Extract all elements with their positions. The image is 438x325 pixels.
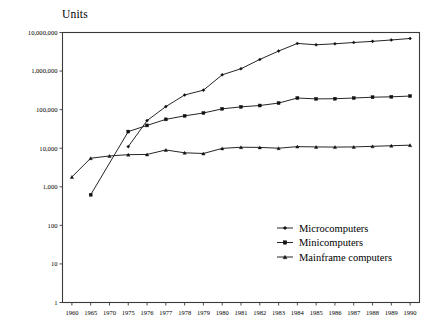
y-tick-label: 10,000,000: [28, 29, 58, 36]
x-tick-label: 1989: [385, 309, 398, 316]
y-tick-label: 100,000: [36, 106, 58, 113]
data-point-diamond-marker: [258, 58, 261, 61]
x-tick-label: 1984: [291, 309, 305, 316]
y-axis-ticks: 10,000,0001,000,000100,00010,0001,000100…: [28, 29, 63, 306]
data-point-diamond-marker: [277, 50, 280, 53]
data-point-diamond-marker: [371, 40, 374, 43]
y-tick-label: 1,000,000: [31, 67, 58, 74]
data-point-diamond-marker: [296, 42, 299, 45]
series-line-0: [128, 38, 410, 146]
series-line-1: [91, 96, 410, 195]
x-tick-label: 1990: [404, 309, 417, 316]
legend-item-label: Minicomputers: [299, 237, 363, 248]
data-point-square-marker: [221, 107, 224, 110]
data-point-square-marker: [277, 102, 280, 105]
series-layer: [70, 37, 412, 196]
data-point-square-marker: [333, 97, 336, 100]
legend-item-label: Mainframe computers: [299, 252, 392, 263]
x-tick-label: 1978: [178, 309, 191, 316]
data-point-square-marker: [352, 97, 355, 100]
y-tick-label: 1: [54, 299, 57, 306]
data-point-diamond-marker: [333, 42, 336, 45]
x-tick-label: 1986: [328, 309, 342, 316]
data-point-diamond-marker: [239, 67, 242, 70]
x-tick-label: 1987: [347, 309, 361, 316]
x-tick-label: 1988: [366, 309, 379, 316]
y-tick-label: 10: [51, 260, 58, 267]
units-line-chart: Units 10,000,0001,000,000100,00010,0001,…: [0, 0, 438, 325]
data-point-square-marker: [409, 95, 412, 98]
data-point-square-marker: [296, 97, 299, 100]
legend-square-icon: [283, 241, 286, 244]
data-point-diamond-marker: [352, 41, 355, 44]
legend-item-label: Microcomputers: [299, 223, 368, 234]
data-point-square-marker: [146, 124, 149, 127]
x-tick-label: 1981: [235, 309, 248, 316]
data-point-diamond-marker: [409, 37, 412, 40]
data-point-square-marker: [371, 96, 374, 99]
data-point-square-marker: [127, 130, 130, 133]
y-tick-label: 1,000: [43, 183, 59, 190]
x-tick-label: 1982: [253, 309, 266, 316]
x-tick-label: 1965: [84, 309, 97, 316]
data-point-square-marker: [183, 114, 186, 117]
chart-plot-area: 10,000,0001,000,000100,00010,0001,000100…: [0, 0, 438, 325]
x-tick-label: 1975: [122, 309, 135, 316]
data-point-square-marker: [258, 104, 261, 107]
y-tick-label: 100: [48, 222, 59, 229]
y-tick-label: 10,000: [39, 145, 58, 152]
legend-diamond-icon: [283, 226, 287, 230]
x-axis-ticks: 1960196519701975197619771978197919801981…: [65, 303, 416, 316]
x-tick-label: 1980: [216, 309, 229, 316]
x-tick-label: 1979: [197, 309, 210, 316]
data-point-square-marker: [202, 111, 205, 114]
data-point-diamond-marker: [315, 43, 318, 46]
x-tick-label: 1970: [103, 309, 116, 316]
data-point-diamond-marker: [390, 38, 393, 41]
data-point-square-marker: [390, 95, 393, 98]
series-line-2: [72, 145, 410, 177]
x-tick-label: 1985: [310, 309, 323, 316]
data-point-square-marker: [164, 118, 167, 121]
data-point-square-marker: [89, 193, 92, 196]
x-tick-label: 1977: [159, 309, 173, 316]
x-tick-label: 1960: [65, 309, 78, 316]
data-point-square-marker: [315, 97, 318, 100]
chart-legend: MicrocomputersMinicomputersMainframe com…: [277, 223, 392, 263]
x-tick-label: 1983: [272, 309, 285, 316]
data-point-square-marker: [240, 105, 243, 108]
x-tick-label: 1976: [141, 309, 155, 316]
